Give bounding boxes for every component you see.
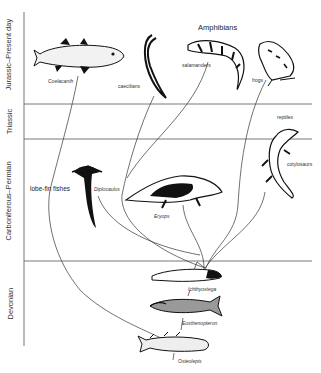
period-triassic: Triassic <box>5 107 14 137</box>
caecilian-illustration <box>145 35 166 98</box>
label-eusthenopteron: Eusthenopteron <box>182 320 217 326</box>
label-frogs: frogs <box>252 77 263 83</box>
group-label-lobe-fin-fishes: lobe-fin fishes <box>30 185 70 192</box>
tick-osteolepis <box>173 353 174 360</box>
osteolepis-illustration <box>138 332 209 352</box>
evolution-diagram: Jurassic–Present day Triassic Carbonifer… <box>0 0 321 373</box>
line-diplocaulus <box>98 196 200 255</box>
period-devonian: Devonian <box>6 290 15 320</box>
eusthenopteron-illustration <box>150 296 222 316</box>
line-salamanders <box>127 62 208 178</box>
frog-illustration <box>259 42 296 86</box>
period-jurassic-present: Jurassic–Present day <box>4 27 13 91</box>
line-eryops <box>183 205 204 270</box>
label-eryops: Eryops <box>154 213 170 219</box>
diplocaulus-illustration <box>72 166 102 228</box>
line-cotylosaurs <box>205 192 265 268</box>
label-diplocaulus: Diplocaulus <box>94 186 120 192</box>
line-frogs <box>205 80 266 270</box>
group-label-amphibians: Amphibians <box>198 23 237 32</box>
line-lobe-fin <box>49 76 165 340</box>
label-cotylosaurs: cotylosaurs <box>287 161 312 167</box>
period-carboniferous-permian: Carboniferous–Permian <box>4 165 13 241</box>
line-caecilians <box>122 96 154 195</box>
label-caecilians: caecilians <box>118 83 140 89</box>
label-ichthyostega: Ichthyostega <box>188 286 216 292</box>
label-salamanders: salamanders <box>182 62 211 68</box>
eryops-illustration <box>126 176 222 208</box>
coelacanth-illustration <box>34 38 124 74</box>
ichthyostega-illustration <box>152 269 222 281</box>
label-coelacanth: Coelacanth <box>48 78 73 84</box>
group-label-reptiles: reptiles <box>277 114 293 120</box>
label-osteolepis: Osteolepis <box>178 358 202 364</box>
